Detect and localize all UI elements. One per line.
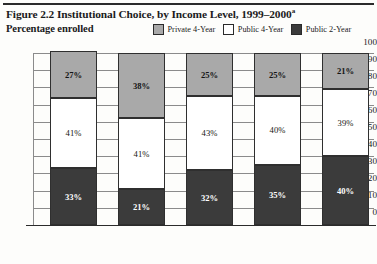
segment-all-private-4-year: 27%	[50, 51, 97, 97]
legend-label-public4: Public 4-Year	[238, 25, 283, 34]
figure-title-text: Figure 2.2 Institutional Choice, by Inco…	[6, 8, 292, 20]
segment-all-public-4-year: 41%	[50, 98, 97, 169]
segment-over90-public-2-year: 21%	[118, 189, 165, 225]
segment-60-89-private-4-year: 25%	[186, 53, 233, 96]
figure-title: Figure 2.2 Institutional Choice, by Inco…	[6, 7, 295, 20]
legend-swatch-icon-public2	[291, 24, 302, 35]
y-tick-100: 100	[349, 38, 377, 47]
figure-title-superscript: a	[292, 7, 295, 15]
segment-over90-public-4-year: 41%	[118, 118, 165, 189]
legend-swatch-icon-public4	[223, 24, 234, 35]
legend-item-public-2-year: Public 2-Year	[291, 24, 351, 35]
segment-30-59-private-4-year: 25%	[254, 53, 301, 96]
segment-under30-public-4-year: 39%	[322, 89, 369, 156]
legend: Private 4-Year Public 4-Year Public 2-Ye…	[153, 24, 351, 35]
segment-60-89-public-4-year: 43%	[186, 96, 233, 170]
legend-item-private-4-year: Private 4-Year	[153, 24, 215, 35]
segment-under30-private-4-year: 21%	[322, 53, 369, 89]
segment-over90-private-4-year: 38%	[118, 53, 165, 118]
legend-item-public-4-year: Public 4-Year	[223, 24, 283, 35]
figure-container: Figure 2.2 Institutional Choice, by Inco…	[0, 0, 377, 264]
segment-60-89-public-2-year: 32%	[186, 170, 233, 225]
x-axis-line	[26, 225, 376, 226]
segment-30-59-public-4-year: 40%	[254, 96, 301, 165]
legend-swatch-icon-private	[153, 24, 164, 35]
plot-area: 33% 41% 27% 21% 41% 38% 32% 43% 25% 35% …	[33, 53, 374, 225]
segment-30-59-public-2-year: 35%	[254, 165, 301, 225]
segment-all-public-2-year: 33%	[50, 168, 97, 225]
axis-title: Percentage enrolled	[6, 23, 93, 34]
legend-label-private: Private 4-Year	[168, 25, 216, 34]
legend-label-public2: Public 2-Year	[306, 25, 351, 34]
segment-under30-public-2-year: 40%	[322, 156, 369, 225]
y-axis-line	[33, 53, 34, 225]
top-divider	[3, 3, 374, 5]
